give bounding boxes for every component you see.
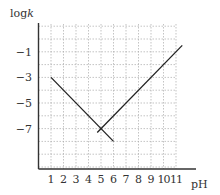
y-tick-label: −5 xyxy=(16,97,32,110)
x-tick-label: 7 xyxy=(123,173,130,186)
x-tick-label: 2 xyxy=(60,173,67,186)
x-tick-label: 3 xyxy=(73,173,80,186)
y-tick-label: −3 xyxy=(16,71,32,84)
chart: −1−3−5−71234567891011logkpH xyxy=(0,0,220,195)
series-line-descending xyxy=(51,77,114,141)
x-tick-label: 11 xyxy=(170,173,182,186)
x-tick-label: 5 xyxy=(98,173,105,186)
x-tick-label: 6 xyxy=(110,173,117,186)
x-tick-label: 9 xyxy=(148,173,155,186)
y-tick-label: −1 xyxy=(16,46,32,59)
x-tick-label: 1 xyxy=(48,173,55,186)
x-tick-label: 8 xyxy=(135,173,142,186)
y-axis-label: logk xyxy=(10,7,34,20)
series-line-ascending xyxy=(97,45,182,132)
x-tick-label: 10 xyxy=(158,173,171,186)
y-tick-label: −7 xyxy=(16,123,32,136)
x-axis-label: pH xyxy=(191,178,208,191)
x-tick-label: 4 xyxy=(85,173,92,186)
